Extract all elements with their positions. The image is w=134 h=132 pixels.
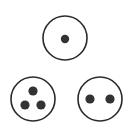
circle-bottom-right-dot-1 [85,94,94,103]
circle-top-dot-1 [61,35,69,43]
circle-three-dots [11,77,55,121]
circle-one-dot [43,16,87,60]
circle-bottom-left-dot-1 [28,86,37,95]
circle-bottom-left-outline [11,77,55,121]
dot-circles-figure [0,0,134,132]
circle-bottom-right-dot-2 [105,94,114,103]
circle-bottom-left-dot-2 [20,100,29,109]
circle-two-dots [78,77,122,121]
figure-canvas [0,0,134,132]
circle-bottom-right-outline [78,77,122,121]
circle-bottom-left-dot-3 [36,100,45,109]
